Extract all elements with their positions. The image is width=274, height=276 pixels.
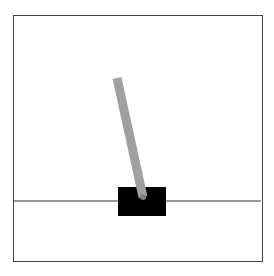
cartpole-scene [0,0,274,276]
pole [117,78,143,197]
axle-icon [140,194,146,200]
